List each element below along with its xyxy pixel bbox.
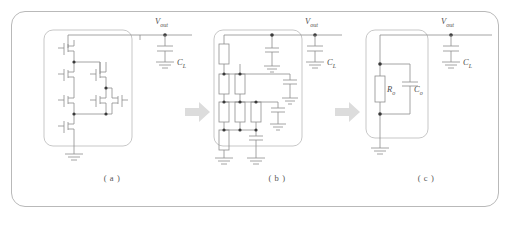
- panel-c-nodes: [378, 33, 453, 116]
- panel-a: Vout CL ( a ): [22, 18, 202, 193]
- panel-c-vout-label: Vout: [441, 16, 454, 28]
- panel-a-circuit: [22, 18, 202, 168]
- panel-c-circuit: [352, 18, 500, 168]
- panel-c-load-capacitor: [442, 35, 460, 68]
- figure-container: Vout CL ( a ): [0, 0, 512, 225]
- panel-a-load-capacitor: [156, 35, 174, 68]
- panel-b-load-capacitor: [306, 35, 324, 68]
- panel-c-capacitor-label: Co: [414, 84, 423, 96]
- panel-b-circuit: [202, 18, 352, 168]
- panel-b-load-cap-label: CL: [327, 57, 336, 69]
- panel-c: Vout CL Ro Co ( c ): [352, 18, 500, 193]
- panel-b-caption: ( b ): [202, 173, 352, 183]
- panel-a-caption: ( a ): [22, 173, 202, 183]
- panel-b-vout-label: Vout: [305, 16, 318, 28]
- panel-a-nodes: [72, 33, 166, 115]
- panel-c-caption: ( c ): [352, 173, 500, 183]
- panel-a-vout-label: Vout: [155, 16, 168, 28]
- panel-c-resistor-label: Ro: [387, 84, 395, 96]
- panel-a-load-cap-label: CL: [177, 57, 186, 69]
- panel-b: Vout CL ( b ): [202, 18, 352, 193]
- panel-c-load-cap-label: CL: [463, 57, 472, 69]
- panel-a-ground-icon: [65, 154, 83, 160]
